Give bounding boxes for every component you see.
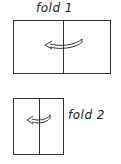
fold-diagram — [0, 0, 121, 164]
fold-2-arrow-icon — [27, 115, 50, 124]
fold-1-paper — [14, 21, 111, 74]
fold-2-paper — [14, 99, 64, 155]
